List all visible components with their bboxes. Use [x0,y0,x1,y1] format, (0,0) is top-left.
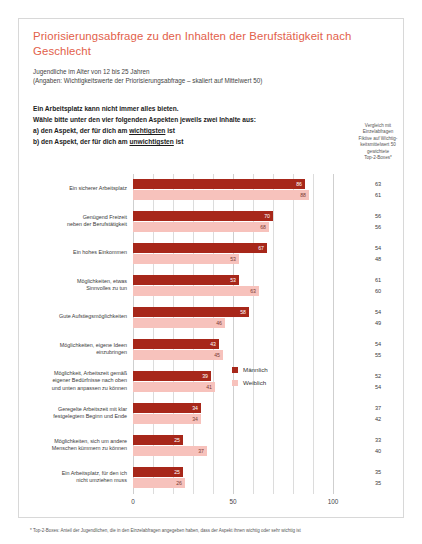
bar-weiblich: 26 [133,478,185,488]
comparison-value: 63 [349,179,407,189]
category-label-line: Ein sicherer Arbeitsplatz [23,185,127,192]
x-axis: 050100 [133,494,333,510]
category-label-line: Gute Aufstiegsmöglichkeiten [23,313,127,320]
bar-value-label: 53 [230,254,236,264]
bar-weiblich: 46 [133,318,225,328]
bar-value-label: 41 [206,382,212,392]
comparison-value: 56 [349,211,407,221]
bar-value-label: 25 [174,467,180,477]
bar-maennlich: 43 [133,339,219,349]
comparison-column-header: Vergleich mit Einzelabfragen Fiktive auf… [349,123,407,161]
comparison-value: 35 [349,467,407,477]
subtitle-line-2: (Angaben: Wichtigkeitswerte der Priorisi… [33,76,393,86]
instruction-line-1: Ein Arbeitsplatz kann nicht immer alles … [33,103,333,114]
instruction-line-3-pre: a) den Aspekt, der für dich am [33,127,129,134]
legend-item-weiblich: Weiblich [232,378,268,388]
comparison-value: 40 [349,446,407,456]
legend-swatch-weiblich [232,380,238,386]
comparison-value: 54 [349,339,407,349]
bar-value-label: 45 [214,350,220,360]
category-label-line: Möglichkeiten, sich um andere [23,438,127,445]
category-label: Geregelte Arbeitszeit mit klarfestgelegt… [23,406,127,421]
legend-label-weiblich: Weiblich [243,378,266,388]
category-label: Möglichkeiten, eigene Ideeneinzubringen [23,342,127,357]
bar-value-label: 34 [192,403,198,413]
bar-value-label: 68 [260,222,266,232]
bar-maennlich: 67 [133,243,267,253]
category-label-line: festgelegtem Beginn und Ende [23,413,127,420]
comparison-value: 55 [349,350,407,360]
gridline [333,174,334,494]
legend-label-maennlich: Männlich [243,365,268,375]
bar-row: Genügend Freizeitneben der Berufstätigke… [133,206,333,238]
category-label: Möglichkeiten, etwasSinnvolles zu tun [23,278,127,293]
bar-value-label: 39 [202,371,208,381]
comparison-value: 48 [349,254,407,264]
chart-page: Priorisierungsabfrage zu den Inhalten de… [0,0,422,544]
x-axis-tick: 100 [328,498,339,505]
bar-rows: Ein sicherer Arbeitsplatz86886361Genügen… [133,174,333,494]
x-axis-tick: 50 [229,498,236,505]
bar-value-label: 70 [264,211,270,221]
bar-row: Möglichkeiten, etwasSinnvolles zu tun536… [133,270,333,302]
bar-weiblich: 45 [133,350,223,360]
bar-weiblich: 34 [133,414,201,424]
comparison-value: 61 [349,275,407,285]
bar-row: Geregelte Arbeitszeit mit klarfestgelegt… [133,398,333,430]
bar-row: Möglichkeiten, eigene Ideeneinzubringen4… [133,334,333,366]
instruction-line-4-pre: b) den Aspekt, der für dich am [33,138,129,145]
instruction-line-2: Wähle bitte unter den vier folgenden Asp… [33,114,333,125]
bar-maennlich: 39 [133,371,211,381]
bar-value-label: 53 [230,275,236,285]
category-label: Ein hohes Einkommen [23,249,127,256]
bar-row: Ein Arbeitsplatz, für den ichnicht umzie… [133,462,333,494]
category-label-line: Sinnvolles zu tun [23,285,127,292]
bar-row: Möglichkeiten, sich um andereMenschen kü… [133,430,333,462]
instruction-line-4-post: ist [174,138,184,145]
category-label: Ein Arbeitsplatz, für den ichnicht umzie… [23,470,127,485]
comparison-value: 33 [349,435,407,445]
category-label-line: Möglichkeit, Arbeitszeit gemäß [23,370,127,377]
bar-value-label: 63 [250,286,256,296]
bar-value-label: 25 [174,435,180,445]
category-label-line: eigener Bedürfnisse nach oben [23,377,127,384]
comparison-value: 37 [349,403,407,413]
plot-area: Ein sicherer Arbeitsplatz86886361Genügen… [133,174,333,494]
category-label-line: Möglichkeiten, eigene Ideen [23,342,127,349]
instruction-line-3: a) den Aspekt, der für dich am wichtigst… [33,125,333,136]
category-label-line: Ein hohes Einkommen [23,249,127,256]
category-label: Möglichkeit, Arbeitszeit gemäßeigener Be… [23,370,127,392]
category-label-line: Ein Arbeitsplatz, für den ich [23,470,127,477]
legend-item-maennlich: Männlich [232,365,268,375]
bar-value-label: 58 [240,307,246,317]
instruction-line-3-emphasis: wichtigsten [129,127,165,134]
bar-value-label: 86 [296,179,302,189]
comparison-value: 49 [349,318,407,328]
instruction-line-4: b) den Aspekt, der für dich am unwichtig… [33,136,333,147]
category-label-line: Geregelte Arbeitszeit mit klar [23,406,127,413]
bar-maennlich: 58 [133,307,249,317]
x-axis-tick: 0 [131,498,135,505]
bar-value-label: 26 [176,478,182,488]
bar-weiblich: 53 [133,254,239,264]
category-label-line: Genügend Freizeit [23,214,127,221]
bar-weiblich: 41 [133,382,215,392]
bar-value-label: 46 [216,318,222,328]
category-label-line: Menschen kümmern zu können [23,445,127,452]
bar-maennlich: 34 [133,403,201,413]
footnote: * Top-2-Boxes: Anteil der Jugendlichen, … [30,527,402,534]
bar-maennlich: 25 [133,435,183,445]
comparison-value: 54 [349,382,407,392]
bar-value-label: 67 [258,243,264,253]
bar-row: Ein sicherer Arbeitsplatz86886361 [133,174,333,206]
bar-weiblich: 37 [133,446,207,456]
category-label-line: und unten anpassen zu können [23,385,127,392]
bar-maennlich: 53 [133,275,239,285]
comparison-header-line-6: Top-2-Boxes* [349,155,407,161]
legend: Männlich Weiblich [232,365,268,391]
category-label: Möglichkeiten, sich um andereMenschen kü… [23,438,127,453]
bar-value-label: 88 [300,190,306,200]
bar-weiblich: 88 [133,190,309,200]
comparison-value: 60 [349,286,407,296]
instruction-line-3-post: ist [165,127,175,134]
